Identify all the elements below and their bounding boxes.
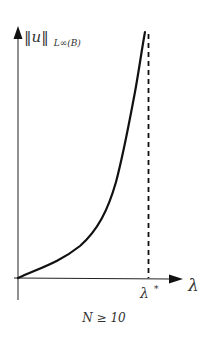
y-axis-label: ‖u‖ L∞(B)	[24, 27, 81, 48]
caption: N ≥ 10	[81, 311, 126, 325]
bifurcation-diagram: ‖u‖ L∞(B) λ * λ N ≥ 10	[0, 0, 207, 338]
y-axis-label-main: ‖u‖	[24, 28, 49, 46]
critical-value-superscript: *	[154, 284, 159, 294]
critical-value-label: λ *	[139, 283, 159, 302]
x-axis-label: λ	[187, 275, 199, 295]
x-axis-line	[14, 278, 172, 279]
y-axis-label-subscript: L∞(B)	[53, 38, 82, 48]
solution-curve	[18, 32, 145, 278]
y-axis-arrowhead-icon	[14, 26, 23, 39]
x-axis-arrowhead-icon	[169, 275, 183, 284]
critical-value-symbol: λ	[139, 285, 149, 301]
